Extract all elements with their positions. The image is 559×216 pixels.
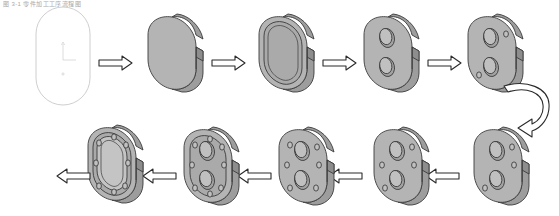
arrow-1-2 [99,56,132,70]
small-hole-1 [504,31,509,37]
step-4-two-bores [364,14,419,92]
step-9-perimeter-hole-ring [184,127,239,205]
small-hole-2 [483,185,488,191]
small-hole-1 [410,144,415,150]
small-hole-3 [512,162,517,168]
inner-pocket [264,22,302,85]
step-5-two-small-holes [468,14,523,92]
arrow-into-finished [57,169,90,183]
process-flow-diagram: 图 3-1 零件加工工序流程图 .ln { fill:none; stroke:… [0,0,559,216]
small-hole-2 [477,72,482,78]
small-hole-3 [317,162,322,168]
arrow-6-7 [426,169,459,183]
small-hole-4 [285,162,290,168]
small-hole-3 [412,162,417,168]
datum-axis-marker [61,42,76,75]
small-hole-2 [383,185,388,191]
diagram-canvas: .ln { fill:none; stroke:#3a3a3a; stroke-… [0,0,559,216]
arrow-4-5 [428,56,461,70]
small-hole-4 [380,162,385,168]
step-2-blank [148,14,203,92]
small-hole-1 [510,144,515,150]
arrow-9-10 [143,169,176,183]
step-6-three-small-holes [474,127,529,205]
step-8-six-small-holes [279,127,334,205]
small-hole-1 [315,144,320,150]
step-10-finished-part [88,125,143,203]
small-hole-5 [288,142,293,148]
step-7-four-small-holes [374,127,429,205]
arrow-3-4 [323,56,356,70]
small-hole-2 [288,185,293,191]
small-hole-6 [314,185,319,191]
step-3-pocket [259,14,314,92]
arrow-8-9 [238,169,271,183]
arrow-2-3 [212,56,245,70]
step-1-sketch [36,7,90,105]
